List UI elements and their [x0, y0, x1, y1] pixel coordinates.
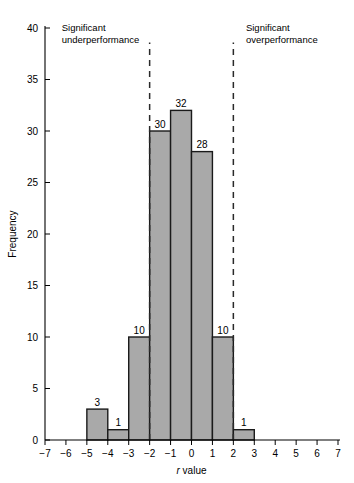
- bar-value-label: 30: [155, 119, 167, 130]
- x-axis-tick-label: 2: [231, 448, 237, 459]
- x-axis-tick-label: −7: [39, 448, 51, 459]
- x-axis-tick-label: 6: [314, 448, 320, 459]
- annotation-line-2: overperformance: [246, 34, 318, 45]
- annotation-line-1: Significant: [62, 22, 106, 33]
- annotation-line-2: underperformance: [62, 34, 140, 45]
- y-axis-tick-label: 30: [27, 126, 39, 137]
- histogram-figure: 31103032281010510152025303540−7−6−5−4−3−…: [0, 0, 354, 483]
- histogram-bar: [171, 110, 192, 440]
- histogram-bar: [108, 430, 129, 440]
- histogram-bar: [129, 337, 150, 440]
- x-axis-tick-label: 7: [335, 448, 341, 459]
- histogram-bar: [233, 430, 254, 440]
- annotation-label: Significantunderperformance: [62, 22, 140, 45]
- annotation-label: Significantoverperformance: [246, 22, 318, 45]
- bar-value-label: 32: [175, 98, 187, 109]
- histogram-bar: [87, 409, 108, 440]
- annotation-line-1: Significant: [246, 22, 290, 33]
- x-axis-title: r value: [176, 465, 206, 476]
- y-axis-tick-label: 15: [27, 280, 39, 291]
- chart-canvas: 31103032281010510152025303540−7−6−5−4−3−…: [0, 0, 354, 483]
- x-axis-tick-label: −6: [60, 448, 72, 459]
- y-axis-tick-label: 25: [27, 177, 39, 188]
- x-axis-tick-label: 3: [252, 448, 258, 459]
- x-axis-tick-label: −3: [123, 448, 135, 459]
- histogram-bar: [192, 152, 213, 440]
- bar-value-label: 1: [241, 417, 247, 428]
- x-axis-tick-label: −1: [165, 448, 177, 459]
- x-axis-title-rest: value: [180, 465, 207, 476]
- x-axis-tick-label: −4: [102, 448, 114, 459]
- y-axis-tick-label: 0: [32, 435, 38, 446]
- histogram-bar: [212, 337, 233, 440]
- x-axis-tick-label: 5: [293, 448, 299, 459]
- y-axis-tick-label: 10: [27, 332, 39, 343]
- y-axis-tick-label: 20: [27, 229, 39, 240]
- x-axis-tick-label: 0: [189, 448, 195, 459]
- bar-value-label: 10: [217, 325, 229, 336]
- bar-value-label: 28: [196, 139, 208, 150]
- y-axis-title: Frequency: [7, 210, 18, 257]
- histogram-bar: [150, 131, 171, 440]
- x-axis-tick-label: 4: [272, 448, 278, 459]
- x-axis-tick-label: 1: [210, 448, 216, 459]
- x-axis-tick-label: −2: [144, 448, 156, 459]
- x-axis-tick-label: −5: [81, 448, 93, 459]
- bar-value-label: 1: [115, 417, 121, 428]
- y-axis-tick-label: 40: [27, 23, 39, 34]
- y-axis-tick-label: 5: [32, 383, 38, 394]
- bar-value-label: 10: [134, 325, 146, 336]
- bar-value-label: 3: [95, 397, 101, 408]
- y-axis-tick-label: 35: [27, 74, 39, 85]
